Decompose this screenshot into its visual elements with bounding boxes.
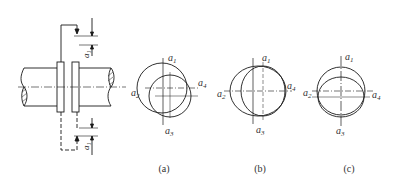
label-c-a1: a1 (345, 51, 354, 64)
label-c-a3: a3 (336, 125, 345, 138)
label-a-a1: a1 (168, 52, 177, 65)
caption-b: (b) (254, 163, 266, 175)
label-c-a2: a2 (303, 87, 312, 100)
label-b-a4: a4 (287, 80, 296, 93)
subfigure-b (224, 58, 292, 124)
label-a-a4: a4 (198, 77, 207, 90)
label-c-a4: a4 (372, 89, 381, 102)
subfigure-a (137, 58, 200, 125)
bottom-dial-bracket (61, 112, 98, 155)
coupling-alignment-diagram: a1 a1 a1 a2 a3 a4 a1 a2 a3 a4 a1 a2 a3 a… (0, 0, 397, 186)
label-a-a3: a3 (165, 125, 174, 138)
subfigure-c (312, 56, 375, 128)
shaft-coupling-view (18, 18, 126, 155)
top-dial-bracket (61, 18, 98, 62)
label-b-a3: a3 (256, 124, 265, 137)
dimension-label-top: a1 (81, 50, 93, 58)
dimension-label-bottom: a1 (81, 142, 93, 150)
caption-c: (c) (343, 163, 354, 175)
caption-a: (a) (158, 163, 169, 175)
label-a-a2: a2 (131, 87, 140, 100)
label-b-a1: a1 (262, 52, 271, 65)
label-b-a2: a2 (217, 88, 226, 101)
